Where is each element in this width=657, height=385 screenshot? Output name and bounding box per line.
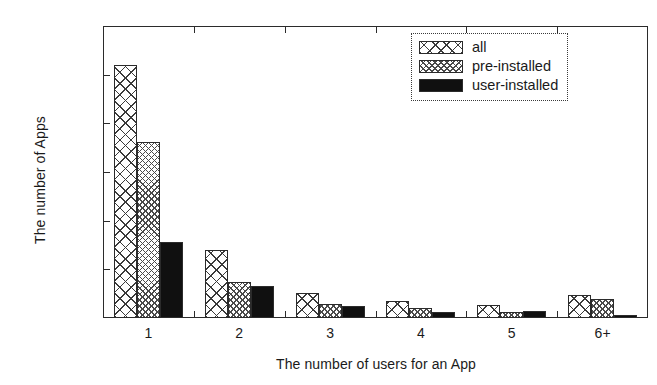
x-axis-tick-label: 4	[391, 325, 451, 341]
bar-user-installed-1	[160, 242, 183, 318]
bar-all-5	[477, 305, 500, 318]
legend-swatch-all-icon	[419, 41, 463, 54]
legend-label-user-installed: user-installed	[472, 78, 558, 93]
bar-pre-installed-1	[137, 142, 160, 318]
bar-all-6plus	[568, 295, 591, 318]
x-axis-tick-label: 1	[118, 325, 178, 341]
bar-pre-installed-4	[409, 308, 432, 318]
legend-label-all: all	[472, 40, 487, 55]
x-axis-tick-label: 5	[482, 325, 542, 341]
bar-pre-installed-2	[228, 282, 251, 318]
legend-label-pre-installed: pre-installed	[472, 59, 551, 74]
bar-pre-installed-3	[319, 304, 342, 318]
bar-user-installed-4	[432, 312, 455, 318]
x-axis-tick-label: 2	[209, 325, 269, 341]
bar-all-2	[205, 250, 228, 318]
bar-user-installed-3	[342, 306, 365, 318]
legend-item-pre-installed: pre-installed	[419, 57, 558, 76]
bar-all-3	[296, 293, 319, 318]
bar-all-4	[386, 301, 409, 318]
x-axis-title: The number of users for an App	[103, 356, 649, 372]
bar-user-installed-5	[523, 311, 546, 318]
legend-item-all: all	[419, 38, 558, 57]
bar-all-1	[114, 65, 137, 318]
legend-item-user-installed: user-installed	[419, 76, 558, 95]
bar-chart: The number of Apps 050100150200250300 12…	[0, 0, 657, 385]
bar-pre-installed-6plus	[591, 299, 614, 318]
legend: all pre-installed user-installed	[411, 33, 568, 101]
bar-user-installed-2	[251, 286, 274, 318]
legend-swatch-pre-installed-icon	[419, 60, 463, 73]
x-axis-tick-label: 3	[300, 325, 360, 341]
legend-swatch-user-installed-icon	[419, 79, 463, 92]
x-axis-tick-label: 6+	[573, 325, 633, 341]
y-axis-title: The number of Apps	[32, 70, 48, 290]
bar-user-installed-6plus	[614, 315, 637, 318]
bar-pre-installed-5	[500, 312, 523, 318]
